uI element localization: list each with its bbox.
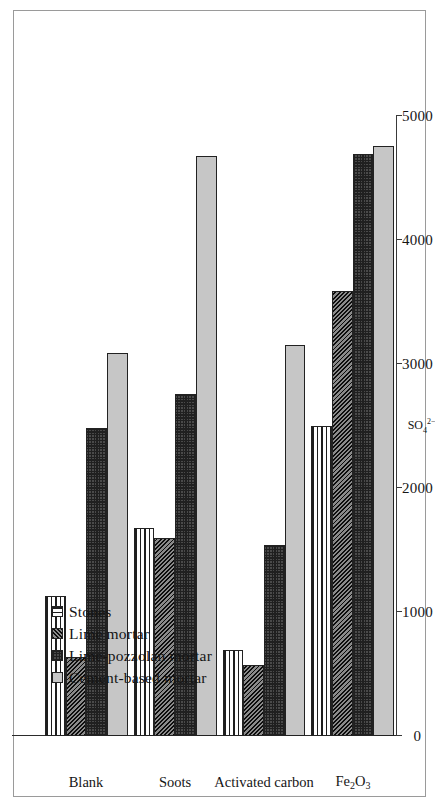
category-label-activated-carbon: Activated carbon — [214, 774, 313, 791]
axis-tick-label: 3000 — [402, 356, 433, 373]
legend-item-label: Lime-pozzolan mortar — [69, 647, 212, 665]
bar-fe2o3-stones — [311, 426, 332, 736]
legend-swatch-icon — [52, 606, 63, 617]
value-axis-title: SO42− concentration µg/cm2 — [407, 417, 435, 434]
legend-item-label: Lime mortar — [69, 625, 149, 643]
axis-tick-label: 4000 — [402, 232, 433, 249]
legend-item-label: Cement-based mortar — [69, 669, 207, 687]
legend-item-label: Stones — [69, 603, 112, 621]
bar-chart-figure: 010002000300040005000 BlankSootsActivate… — [0, 0, 435, 808]
bar-activated-carbon-lime-mortar — [243, 665, 264, 736]
legend-item-cement-based-mortar: Cement-based mortar — [52, 668, 212, 687]
bar-fe2o3-cement-based-mortar — [373, 146, 394, 736]
legend-swatch-icon — [52, 650, 63, 661]
axis-tick-label: 5000 — [402, 108, 433, 125]
legend-item-stones: Stones — [52, 602, 212, 621]
axis-tick — [396, 735, 402, 736]
rotated-figure-stage: 010002000300040005000 BlankSootsActivate… — [0, 0, 435, 808]
bar-activated-carbon-lime-pozzolan-mortar — [264, 545, 285, 736]
legend-item-lime-mortar: Lime mortar — [52, 624, 212, 643]
category-label-blank: Blank — [69, 774, 104, 791]
axis-tick-label: 1000 — [402, 604, 433, 621]
axis-tick-label: 2000 — [402, 480, 433, 497]
axis-tick-label: 0 — [414, 728, 422, 745]
bar-activated-carbon-stones — [223, 650, 244, 736]
bar-fe2o3-lime-mortar — [332, 291, 353, 736]
legend-swatch-icon — [52, 672, 63, 683]
chart-legend: StonesLime mortarLime-pozzolan mortarCem… — [52, 602, 212, 690]
bar-fe2o3-lime-pozzolan-mortar — [353, 154, 374, 736]
legend-swatch-icon — [52, 628, 63, 639]
bar-activated-carbon-cement-based-mortar — [285, 345, 306, 736]
category-label-soots: Soots — [159, 774, 191, 791]
category-label-fe2o3: Fe2O3 — [335, 773, 370, 792]
legend-item-lime-pozzolan-mortar: Lime-pozzolan mortar — [52, 646, 212, 665]
value-axis-line — [396, 116, 397, 736]
